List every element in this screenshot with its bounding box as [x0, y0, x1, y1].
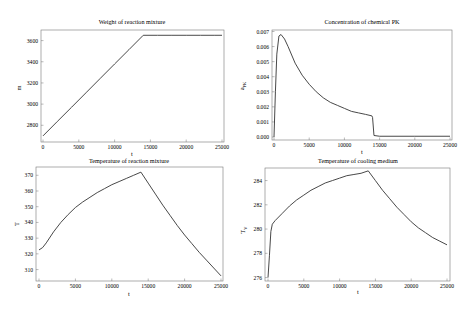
data-line: [39, 172, 221, 276]
x-tick-label: 20000: [408, 142, 422, 148]
x-tick-label: 15000: [141, 283, 155, 289]
y-tick-label: 0.006: [256, 44, 269, 50]
axis-ticks: 0500010000150002000025000276278280282284: [254, 178, 455, 289]
y-tick-label: 3400: [27, 59, 38, 65]
x-tick-label: 5000: [298, 283, 309, 289]
x-axis-label: t: [128, 290, 130, 297]
y-tick-label: 320: [25, 251, 34, 257]
y-tick-label: 280: [254, 226, 263, 232]
x-tick-label: 10000: [108, 144, 122, 150]
y-tick-label: 370: [25, 172, 34, 178]
panel-temperature-cooling: Temperature of cooling medium 0500010000…: [239, 157, 454, 295]
y-tick-label: 2800: [27, 122, 38, 128]
y-axis-label: aPK: [238, 81, 247, 90]
y-axis-label: T: [13, 222, 20, 226]
y-tick-label: 278: [254, 250, 263, 256]
y-tick-label: 3600: [27, 38, 38, 44]
x-tick-label: 10000: [337, 142, 351, 148]
data-line: [274, 35, 450, 137]
x-tick-label: 0: [267, 283, 270, 289]
x-tick-label: 5000: [304, 142, 315, 148]
y-tick-label: 0.005: [256, 59, 269, 65]
y-axis-label: m: [15, 85, 22, 90]
axis-ticks: 0500010000150002000025000310320330340350…: [25, 172, 229, 289]
y-tick-label: 0.007: [256, 29, 269, 35]
plot-frame: [36, 167, 223, 281]
panel-title: Concentration of chemical PK: [324, 18, 400, 25]
x-tick-label: 15000: [373, 142, 387, 148]
y-tick-label: 282: [254, 202, 263, 208]
axis-ticks: 0500010000150002000025000280030003200340…: [27, 38, 229, 150]
x-tick-label: 25000: [440, 283, 454, 289]
x-axis-label: t: [361, 148, 363, 155]
y-tick-label: 0.002: [256, 104, 269, 110]
y-axis-label-sub: V: [243, 226, 248, 230]
y-tick-label: 276: [254, 275, 263, 281]
y-tick-label: 0.004: [256, 74, 269, 80]
panel-weight: Weight of reaction mixture 0500010000150…: [15, 18, 229, 157]
x-tick-label: 10000: [333, 283, 347, 289]
axis-ticks: 05000100001500020000250000.0000.0010.002…: [256, 29, 457, 149]
x-tick-label: 0: [38, 283, 41, 289]
panel-temperature-mixture: Temperature of reaction mixture 05000100…: [13, 157, 228, 297]
y-tick-label: 360: [25, 188, 34, 194]
x-axis-label: t: [357, 288, 359, 295]
y-tick-label: 0.000: [256, 134, 269, 140]
y-tick-label: 330: [25, 235, 34, 241]
x-tick-label: 20000: [404, 283, 418, 289]
x-tick-label: 0: [273, 142, 276, 148]
y-tick-label: 0.001: [256, 119, 269, 125]
x-tick-label: 20000: [179, 144, 193, 150]
plot-frame: [272, 30, 452, 140]
y-tick-label: 0.003: [256, 89, 269, 95]
plot-frame: [41, 30, 224, 142]
y-tick-label: 3200: [27, 80, 38, 86]
y-tick-label: 340: [25, 219, 34, 225]
y-tick-label: 3000: [27, 101, 38, 107]
data-line: [43, 35, 222, 136]
x-tick-label: 20000: [178, 283, 192, 289]
figure: Weight of reaction mixture 0500010000150…: [0, 0, 474, 309]
y-tick-label: 310: [25, 267, 34, 273]
x-tick-label: 5000: [73, 144, 84, 150]
x-tick-label: 15000: [368, 283, 382, 289]
x-axis-label: t: [131, 150, 133, 157]
plot-frame: [265, 168, 450, 281]
data-line: [268, 171, 447, 278]
y-tick-label: 284: [254, 178, 263, 184]
x-tick-label: 0: [42, 144, 45, 150]
y-axis-label: TV: [239, 226, 248, 234]
y-axis-label-sub: PK: [242, 81, 247, 88]
y-tick-label: 350: [25, 204, 34, 210]
x-tick-label: 15000: [143, 144, 157, 150]
x-tick-label: 25000: [443, 142, 457, 148]
panel-title: Temperature of cooling medium: [318, 157, 398, 164]
x-tick-label: 5000: [70, 283, 81, 289]
x-tick-label: 10000: [105, 283, 119, 289]
panel-title: Weight of reaction mixture: [99, 18, 166, 25]
x-tick-label: 25000: [215, 144, 229, 150]
x-tick-label: 25000: [214, 283, 228, 289]
panel-concentration: Concentration of chemical PK 05000100001…: [238, 18, 457, 155]
panel-title: Temperature of reaction mixture: [89, 157, 169, 164]
